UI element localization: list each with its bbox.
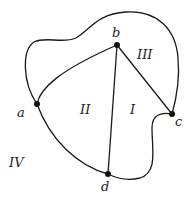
vertex-label-d: d [101,179,109,194]
region-label-II: II [79,102,91,117]
planar-graph-diagram: b a c d III II I IV [0,0,192,198]
edge-c-d-outer [108,113,172,179]
vertex-label-b: b [112,25,120,40]
vertex-a [34,101,40,107]
vertex-label-a: a [17,105,25,120]
edge-a-b [37,45,117,104]
region-label-I: I [129,102,136,117]
edge-a-d [37,104,108,174]
vertex-d [105,171,111,177]
edge-b-d [108,45,117,174]
vertex-b [114,42,120,48]
region-label-IV: IV [8,155,25,170]
vertex-label-c: c [175,114,183,129]
edge-a-c-outer [25,12,178,114]
region-label-III: III [136,47,153,62]
